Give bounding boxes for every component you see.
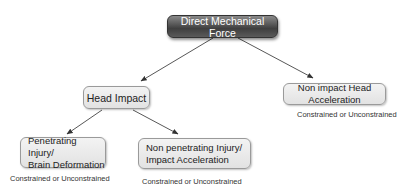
edge-head-impact-to-non-penetrating (133, 110, 178, 134)
node-non-impact-head-acceleration: Non impact Head Acceleration (283, 83, 386, 105)
edge-head-impact-to-penetrating (67, 110, 102, 134)
node-label: Head Impact (87, 92, 147, 104)
node-label-line1: Non penetrating Injury/ (146, 142, 242, 154)
node-label: Non impact Head Acceleration (284, 82, 385, 106)
caption-non-impact: Constrained or Unconstrained (297, 110, 397, 119)
caption-non-penetrating: Constrained or Unconstrained (142, 177, 242, 186)
node-penetrating-injury: Penetrating Injury/ Brain Deformation (20, 137, 106, 168)
node-head-impact: Head Impact (83, 86, 150, 109)
node-direct-mechanical-force: Direct Mechanical Force (167, 15, 278, 38)
caption-penetrating: Constrained or Unconstrained (10, 174, 110, 183)
node-label-line2: Brain Deformation (28, 159, 105, 171)
edge-root-to-head-impact (141, 38, 213, 81)
node-label-line2: Impact Acceleration (146, 154, 229, 166)
node-label-line1: Penetrating Injury/ (28, 135, 105, 159)
edge-root-to-non-impact (238, 38, 313, 78)
node-label: Direct Mechanical Force (168, 15, 277, 39)
node-non-penetrating-injury: Non penetrating Injury/ Impact Accelerat… (138, 138, 251, 169)
